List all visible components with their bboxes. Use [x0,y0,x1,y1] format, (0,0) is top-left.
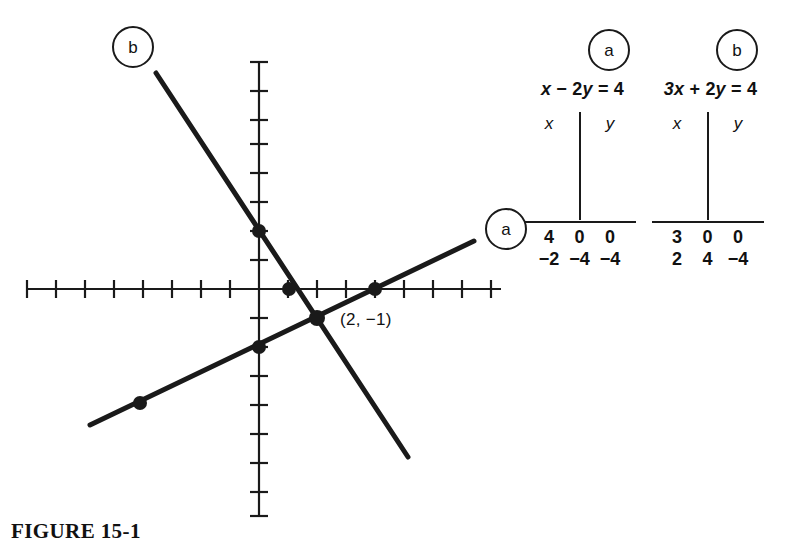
coordinate-plot [0,0,560,549]
point-b-x-int [282,282,296,296]
table-b-equation: 3x + 2y = 4 [648,78,773,100]
table-b-row0-y: 0 [703,226,713,248]
table-b-header-x: x [673,112,682,136]
table-a-equation: x − 2y = 4 [520,78,645,100]
figure-container: b a (2, −1) a b x − 2y = 4 x [0,0,793,549]
table-a-row1-y: −2 [539,248,560,270]
table-b-badge-text: b [732,42,741,59]
line-b [156,73,408,457]
table-b-row2-y: −4 [728,248,749,270]
eq-a-op1: − [556,79,567,99]
table-a-row0-x: 4 [544,226,554,248]
table-b-header-y: y [734,112,743,136]
intersection-coordinate-label: (2, −1) [340,310,392,330]
point-b-0-2 [252,224,266,238]
eq-b-term4: y [716,79,726,99]
eq-a-term4: y [583,79,593,99]
eq-a-equals: = [598,79,609,99]
table-a-header-rule [524,221,636,223]
table-b-row2-x: 4 [703,248,713,270]
eq-a-rhs: 4 [614,79,624,99]
table-a-row2-x: −4 [569,248,590,270]
intersection-point [309,310,325,326]
point-a-0-neg2 [252,340,266,354]
table-a-badge: a [588,29,630,71]
line-b-plot-badge-text: b [128,39,137,56]
table-b: 3x + 2y = 4 x y 3 0 0 2 4 −4 [648,78,773,270]
table-a-badge-text: a [604,42,613,59]
table-a-values: x y 4 0 0 −2 −4 −4 [520,112,645,270]
eq-b-equals: = [731,79,742,99]
table-b-divider [707,112,709,220]
table-a-header-x: x [545,112,554,136]
line-a-plot-badge-text: a [501,221,510,238]
table-b-header-rule [652,221,764,223]
eq-b-term3: 2 [705,79,715,99]
eq-b-rhs: 4 [747,79,757,99]
table-b-row1-y: 2 [672,248,682,270]
figure-caption: FIGURE 15-1 [11,519,141,544]
table-a-divider [579,112,581,220]
table-b-values: x y 3 0 0 2 4 −4 [648,112,773,270]
line-b-plot-badge: b [112,26,154,68]
table-a-row0-y: 0 [575,226,585,248]
table-b-row1-x: 0 [733,226,743,248]
eq-a-term1: x [541,79,551,99]
table-a: x − 2y = 4 x y 4 0 0 −2 −4 −4 [520,78,645,270]
table-a-row2-y: −4 [600,248,621,270]
eq-a-term3: 2 [572,79,582,99]
point-a-neg4-neg4 [133,396,147,410]
eq-b-term1: 3x [664,79,684,99]
table-a-row1-x: 0 [605,226,615,248]
eq-b-op1: + [689,79,700,99]
table-b-badge: b [716,29,758,71]
point-a-4-0 [368,282,382,296]
equation-tables: a b x − 2y = 4 x y 4 0 [520,78,793,238]
table-a-header-y: y [606,112,615,136]
table-b-row0-x: 3 [672,226,682,248]
